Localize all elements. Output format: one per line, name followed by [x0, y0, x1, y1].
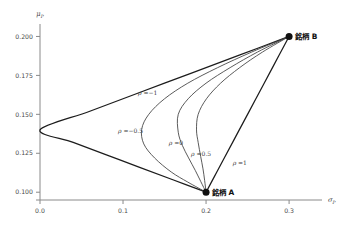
asset-marker-a [203, 189, 210, 196]
x-tick-label: 0.3 [284, 207, 294, 214]
rho-annotation-4: ρ =1 [232, 159, 247, 167]
y-tick-label: 0.200 [15, 33, 33, 40]
x-tick-label: 0.1 [118, 207, 128, 214]
portfolio-frontier-chart: 0.1000.1250.1500.1750.200 0.00.10.20.3 μ… [0, 0, 342, 236]
asset-markers-group: 銘柄 A銘柄 B [203, 32, 318, 197]
frontier-curve-rho-0: ρ = 0 [177, 36, 289, 192]
frontier-curve-rho-1: ρ = 1 [206, 36, 289, 192]
y-tick-label: 0.150 [15, 111, 33, 118]
frontier-curve-rho-neg1: ρ = −1 [40, 36, 289, 192]
y-axis-ticks: 0.1000.1250.1500.1750.200 [15, 33, 40, 196]
rho-annotation-1: ρ =−0.5 [117, 127, 143, 135]
x-tick-label: 0.2 [201, 207, 211, 214]
asset-marker-b [286, 33, 293, 40]
y-tick-label: 0.100 [15, 188, 33, 195]
x-axis-title: σP [328, 196, 337, 205]
y-tick-label: 0.175 [15, 72, 33, 79]
y-axis-title: μP [36, 10, 44, 19]
x-axis-ticks: 0.00.10.20.3 [35, 200, 294, 214]
chart-canvas: 0.1000.1250.1500.1750.200 0.00.10.20.3 μ… [0, 0, 342, 236]
rho-annotations-group: ρ =−1ρ =−0.5ρ =0ρ =0.5ρ =1 [117, 89, 247, 167]
asset-label-a: 銘柄 A [212, 188, 235, 197]
rho-annotation-0: ρ =−1 [137, 89, 157, 97]
rho-annotation-3: ρ =0.5 [190, 150, 211, 158]
frontier-curve-rho-neg0p5: ρ = −0.5 [141, 36, 289, 192]
asset-label-b: 銘柄 B [295, 32, 318, 41]
x-tick-label: 0.0 [35, 207, 45, 214]
frontier-curves-group: ρ = −1ρ = −0.5ρ = 0ρ = 0.5ρ = 1 [40, 36, 289, 192]
rho-annotation-2: ρ =0 [168, 139, 183, 147]
y-tick-label: 0.125 [15, 149, 33, 156]
